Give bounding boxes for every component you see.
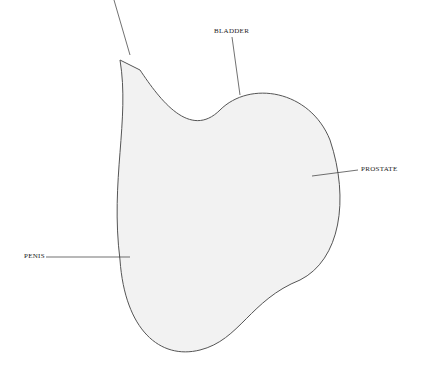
label-bladder: BLADDER: [214, 27, 249, 35]
label-prostate: PROSTATE: [361, 165, 397, 173]
unlabeled-leader-line: [114, 0, 130, 55]
illustration-schematic: [0, 0, 421, 383]
bladder-leader-line: [232, 37, 240, 95]
anatomy-figure: BLADDER PROSTATE PENIS: [0, 0, 421, 383]
label-penis: PENIS: [24, 252, 45, 260]
illustration-outline: [117, 60, 340, 352]
